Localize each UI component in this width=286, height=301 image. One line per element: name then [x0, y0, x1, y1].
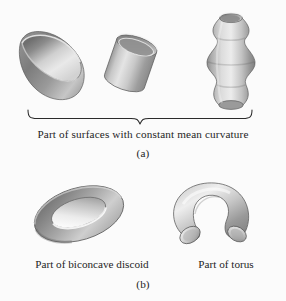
- caption-torus: Part of torus: [178, 258, 274, 270]
- unduloid-body: [207, 18, 255, 105]
- brace-path: [28, 110, 252, 124]
- shape-torus: [166, 178, 258, 250]
- label-panel-b: (b): [0, 278, 286, 290]
- shape-unduloid: [202, 8, 260, 112]
- caption-panel-a-group: Part of surfaces with constant mean curv…: [0, 128, 286, 140]
- discoid-group: [27, 176, 130, 253]
- discoid-svg: [30, 176, 128, 252]
- caption-biconcave-discoid: Part of biconcave discoid: [16, 258, 168, 270]
- cylinder-body-group: [102, 30, 160, 97]
- cylinder-svg: [96, 28, 162, 108]
- brace-svg: [26, 108, 254, 126]
- torus-svg: [166, 178, 258, 250]
- hemisphere-svg: [14, 16, 88, 104]
- label-panel-a: (a): [0, 147, 286, 159]
- unduloid-svg: [202, 8, 260, 112]
- brace-panel-a: [26, 108, 254, 126]
- shape-hemisphere: [14, 16, 88, 104]
- shape-cylinder: [96, 28, 162, 108]
- shape-biconcave-discoid: [30, 176, 128, 252]
- unduloid-top-bore: [222, 15, 240, 22]
- figure-root: Part of surfaces with constant mean curv…: [0, 0, 286, 301]
